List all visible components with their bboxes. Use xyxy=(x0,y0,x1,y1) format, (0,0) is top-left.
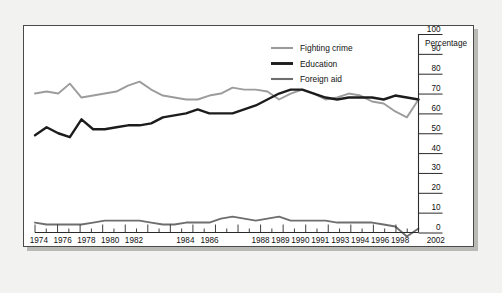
y-tick-label: 10 xyxy=(431,203,441,212)
legend-label-fighting-crime: Fighting crime xyxy=(300,43,353,53)
x-tick-label: 1993 xyxy=(331,236,350,245)
x-tick-label: 1978 xyxy=(77,236,96,245)
series-line-foreign-aid xyxy=(35,217,419,237)
y-tick-label: 60 xyxy=(431,104,441,113)
legend-label-foreign-aid: Foreign aid xyxy=(300,74,342,84)
x-tick-label: 1989 xyxy=(271,236,290,245)
x-tick-label: 1984 xyxy=(176,236,195,245)
y-tick-label: 80 xyxy=(431,64,441,73)
x-tick-label: 1986 xyxy=(200,236,219,245)
x-tick-label: 1988 xyxy=(251,236,270,245)
x-tick-label: 1980 xyxy=(101,236,120,245)
y-axis-title: Percentage xyxy=(425,39,467,48)
y-tick-label: 50 xyxy=(431,124,441,133)
y-tick-label: 70 xyxy=(431,84,441,93)
x-tick-label: 1998 xyxy=(391,236,410,245)
series-layer xyxy=(35,82,419,237)
x-tick-label: 1974 xyxy=(30,236,49,245)
y-tick-labels: 0102030405060708090100 xyxy=(427,26,441,232)
x-tick-label: 1990 xyxy=(291,236,310,245)
legend-label-education: Education xyxy=(300,59,338,69)
x-tick-label: 1991 xyxy=(311,236,330,245)
y-tick-label: 40 xyxy=(431,144,441,153)
series-line-fighting-crime xyxy=(35,82,419,118)
x-tick-label: 1996 xyxy=(371,236,390,245)
y-tick-label: 0 xyxy=(436,223,441,232)
y-tick-label: 20 xyxy=(431,183,441,192)
y-tick-label: 100 xyxy=(427,26,441,34)
x-tick-labels: 1974197619781980198219841986198819891990… xyxy=(30,236,446,245)
chart-legend: Fighting crimeEducationForeign aid xyxy=(271,43,353,84)
x-tick-label: 2002 xyxy=(427,236,446,245)
y-tick-label: 30 xyxy=(431,163,441,172)
chart-page: 0102030405060708090100 19741976197819801… xyxy=(0,0,502,293)
series-line-education xyxy=(35,90,419,138)
x-tick-label: 1982 xyxy=(125,236,144,245)
line-chart: 0102030405060708090100 19741976197819801… xyxy=(24,26,473,246)
chart-figure-card: 0102030405060708090100 19741976197819801… xyxy=(23,25,474,247)
x-tick-label: 1994 xyxy=(351,236,370,245)
x-axis xyxy=(35,225,419,233)
x-tick-label: 1976 xyxy=(54,236,73,245)
